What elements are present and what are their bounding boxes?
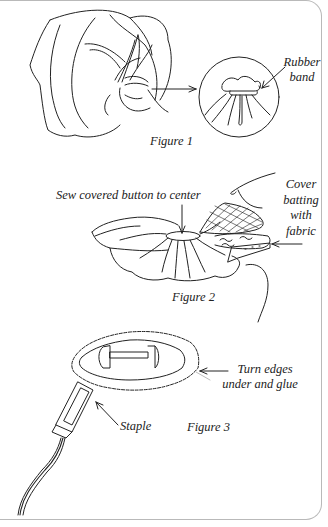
turn-edges-label-line-1: Turn edges (214, 362, 306, 377)
figure-2-caption: Figure 2 (172, 290, 215, 305)
turn-edges-label: Turn edges under and glue (214, 362, 306, 392)
rubber-band-label-line-2: band (278, 70, 326, 85)
rubber-band-label: Rubber band (278, 55, 326, 85)
figure-3-caption: Figure 3 (187, 420, 230, 435)
cover-batting-label-line-2: batting (276, 193, 326, 209)
turn-edges-label-line-2: under and glue (214, 377, 306, 392)
figure-1-detail-circle (199, 57, 285, 137)
rubber-band-label-line-1: Rubber (278, 55, 326, 70)
sew-button-label: Sew covered button to center (56, 188, 201, 203)
cover-batting-label-line-1: Cover (276, 177, 326, 193)
cover-batting-label: Cover batting with fabric (276, 177, 326, 239)
staple-label: Staple (120, 419, 151, 434)
figure-1-fabric-drawing (30, 10, 196, 137)
figure-1-caption: Figure 1 (150, 134, 193, 149)
cover-batting-label-line-3: with (276, 208, 326, 224)
instruction-page: Rubber band Figure 1 Sew covered button … (0, 0, 328, 527)
cover-batting-label-line-4: fabric (276, 224, 326, 240)
